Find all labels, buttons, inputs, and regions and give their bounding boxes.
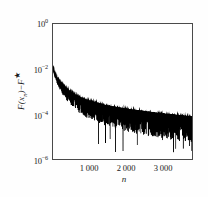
y-axis-label-f: F	[16, 104, 26, 110]
y-tick-base: 10	[34, 156, 42, 166]
y-tick-label-2: 10−2	[34, 65, 48, 75]
y-tick-label-3: 10−4	[34, 111, 48, 121]
y-tick-exponent: −2	[42, 63, 48, 70]
y-tick-label-1: 100	[37, 19, 48, 29]
x-tick-label-2000: 2 000	[117, 163, 136, 173]
y-tick-exponent: 0	[45, 17, 48, 24]
y-axis-label-subscript: n	[21, 93, 28, 96]
y-axis-label-x: x	[16, 97, 26, 101]
x-tick-label-3000: 3 000	[154, 163, 173, 173]
y-axis-label-star: ★	[13, 72, 22, 79]
y-axis-label: F(xn)−F★	[16, 72, 26, 110]
y-tick-base: 10	[34, 111, 42, 121]
y-tick-exponent: −4	[42, 109, 48, 116]
convergence-figure: 100 10−2 10−4 10−6 1 000 2 000 3 000 n F…	[0, 0, 208, 197]
y-axis-label-open: (	[16, 101, 26, 104]
plot-area	[52, 23, 193, 160]
y-tick-label-4: 10−6	[34, 156, 48, 166]
data-series-canvas	[53, 24, 192, 159]
y-tick-base: 10	[34, 65, 42, 75]
y-axis-label-minus: −	[16, 85, 26, 90]
y-tick-base: 10	[37, 19, 45, 29]
x-axis-label: n	[122, 174, 127, 184]
y-axis-label-close: )	[16, 90, 26, 93]
x-tick-label-1000: 1 000	[80, 163, 99, 173]
y-axis-label-fstar: F	[16, 79, 26, 85]
y-tick-exponent: −6	[42, 154, 48, 161]
